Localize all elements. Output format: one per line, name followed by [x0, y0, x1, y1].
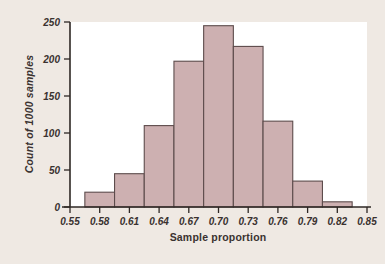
histogram-bar — [174, 61, 204, 207]
y-axis-title: Count of 1000 samples — [23, 55, 35, 174]
x-tick-label: 0.82 — [328, 216, 348, 227]
x-tick-label: 0.70 — [209, 216, 229, 227]
x-tick-label: 0.79 — [298, 216, 318, 227]
histogram-bar — [263, 121, 293, 207]
histogram-bar — [144, 126, 174, 207]
y-tick-label: 0 — [54, 202, 60, 213]
y-tick-label: 100 — [43, 128, 60, 139]
x-tick-label: 0.58 — [90, 216, 110, 227]
histogram-bar — [233, 46, 263, 207]
y-tick-label: 200 — [42, 54, 60, 65]
histogram-bar — [204, 26, 234, 207]
y-tick-label: 50 — [49, 165, 61, 176]
x-tick-label: 0.55 — [60, 216, 80, 227]
y-tick-label: 250 — [42, 17, 60, 28]
x-tick-label: 0.73 — [238, 216, 258, 227]
histogram-svg: 050100150200250 0.550.580.610.640.670.70… — [0, 0, 385, 264]
x-tick-label: 0.67 — [179, 216, 199, 227]
histogram-bar — [85, 192, 115, 207]
x-tick-label: 0.61 — [120, 216, 140, 227]
histogram-bar — [115, 174, 145, 207]
histogram-bar — [293, 181, 323, 207]
x-tick-label: 0.76 — [268, 216, 288, 227]
x-tick-label: 0.64 — [149, 216, 169, 227]
x-tick-label: 0.85 — [357, 216, 377, 227]
histogram-figure: 050100150200250 0.550.580.610.640.670.70… — [0, 0, 385, 264]
y-tick-label: 150 — [43, 91, 60, 102]
x-axis-title: Sample proportion — [170, 231, 267, 243]
